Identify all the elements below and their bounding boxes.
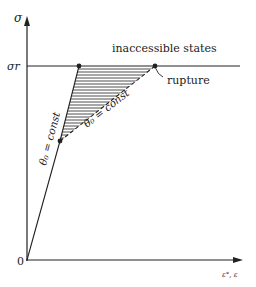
inaccessible-states-label: inaccessible states (112, 42, 217, 55)
sigma-r-label: σr (7, 60, 21, 73)
stress-strain-diagram: σ σr 0 ε°, ε inaccessible states rupture… (0, 0, 256, 287)
rupture-leader-line (155, 67, 163, 77)
y-axis-label: σ (14, 11, 23, 25)
y-axis-arrow-icon (24, 16, 30, 26)
lower-node-dot (58, 139, 63, 144)
loading-path (27, 66, 79, 260)
x-axis-label: ε°, ε (222, 271, 238, 279)
upper-node-dot (77, 64, 82, 69)
rupture-dot (153, 64, 158, 69)
theta-const-label-1: θ₀ = const (36, 110, 62, 167)
rupture-label: rupture (167, 74, 210, 87)
x-axis-arrow-icon (233, 257, 243, 263)
diagram-svg: σ σr 0 ε°, ε inaccessible states rupture… (0, 0, 256, 287)
origin-label: 0 (17, 255, 24, 268)
